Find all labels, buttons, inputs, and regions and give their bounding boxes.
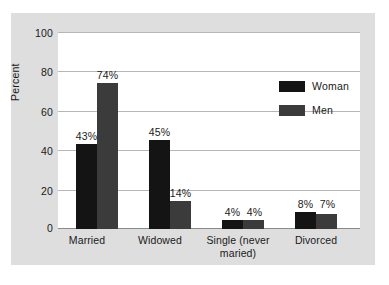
- legend-label-men: Men: [312, 104, 333, 116]
- x-tick-married-line1: Married: [57, 234, 117, 247]
- y-tick-label-80: 80: [23, 67, 53, 77]
- legend-label-woman: Woman: [312, 80, 349, 92]
- bar-label-widowed-woman: 45%: [139, 126, 180, 138]
- x-tick-divorced-line1: Divorced: [283, 234, 349, 247]
- bar-divorced-woman[interactable]: [295, 212, 316, 229]
- x-tick-label-widowed: Widowed: [130, 234, 190, 247]
- y-axis-title: Percent: [9, 63, 21, 101]
- bar-label-married-men: 74%: [87, 69, 128, 81]
- legend-item-men[interactable]: Men: [279, 98, 357, 122]
- bar-label-single-men: 4%: [236, 206, 273, 218]
- bar-single-men[interactable]: [243, 220, 264, 229]
- x-tick-label-single: Single (never maried): [195, 234, 281, 259]
- y-tick-label-40: 40: [23, 146, 53, 156]
- plot-area: 43% 74% 45% 14% 4% 4% 8% 7%: [58, 32, 360, 229]
- bar-married-woman[interactable]: [76, 144, 97, 229]
- x-tick-single-line1: Single (never: [195, 234, 281, 247]
- y-tick-label-100: 100: [23, 28, 53, 38]
- x-tick-single-line2: maried): [195, 247, 281, 260]
- bar-label-divorced-men: 7%: [309, 198, 346, 210]
- y-tick-label-20: 20: [23, 186, 53, 196]
- bar-divorced-men[interactable]: [316, 214, 337, 229]
- bar-widowed-woman[interactable]: [149, 140, 170, 229]
- legend-swatch-woman-icon: [279, 81, 305, 92]
- x-tick-widowed-line1: Widowed: [130, 234, 190, 247]
- bar-widowed-men[interactable]: [170, 201, 191, 229]
- bar-single-woman[interactable]: [222, 220, 243, 229]
- bar-chart-figure: Percent 100 80 60 40 20 0 43% 74% 45% 14…: [0, 0, 389, 285]
- bar-married-men[interactable]: [97, 83, 118, 229]
- y-tick-label-0: 0: [23, 223, 53, 233]
- legend-swatch-men-icon: [279, 105, 305, 116]
- legend: Woman Men: [279, 74, 357, 122]
- bar-label-widowed-men: 14%: [160, 187, 201, 199]
- gridline-100: [58, 32, 360, 33]
- x-tick-label-married: Married: [57, 234, 117, 247]
- x-tick-label-divorced: Divorced: [283, 234, 349, 247]
- y-tick-label-60: 60: [23, 107, 53, 117]
- bar-label-married-woman: 43%: [66, 130, 107, 142]
- legend-item-woman[interactable]: Woman: [279, 74, 357, 98]
